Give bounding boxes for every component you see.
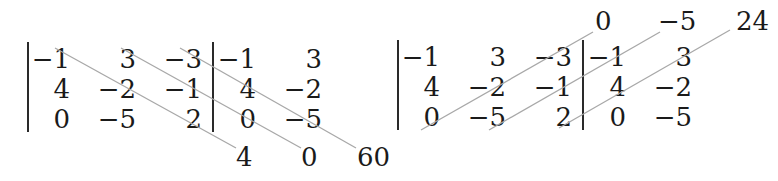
diagonal-line (180, 48, 356, 148)
diagonal-line (489, 32, 660, 130)
diagonal-line (55, 48, 236, 148)
diagonal-line (559, 30, 730, 128)
determinant-sarrus-figure: −1 3 −3 −1 3 4 −2 −1 4 −2 0 −5 2 0 −5 4 … (0, 0, 778, 181)
diagonal-line (121, 48, 301, 148)
diagonal-lines (0, 0, 778, 181)
diagonal-line (421, 32, 593, 130)
